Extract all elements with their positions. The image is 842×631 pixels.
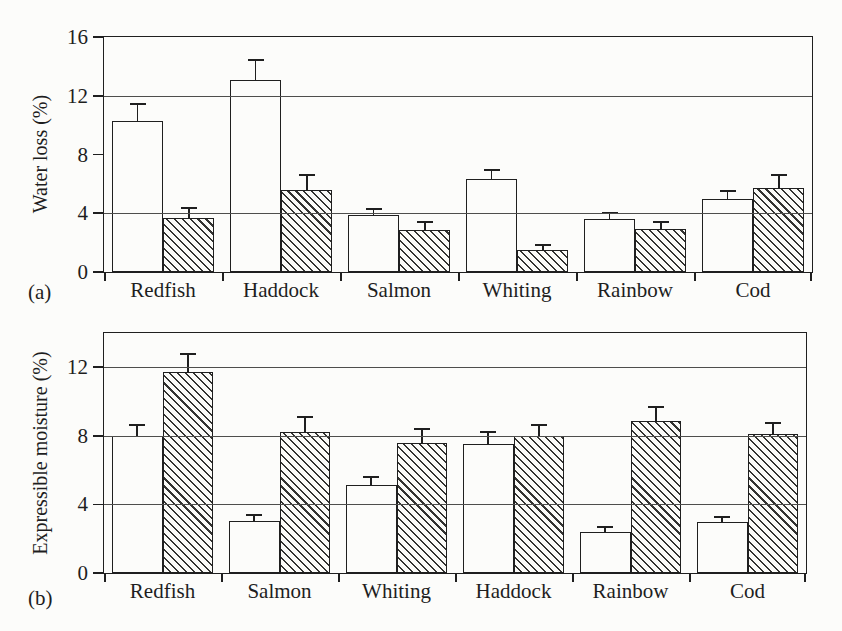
y-axis-tick: [93, 212, 103, 214]
error-bar-stem: [187, 354, 189, 372]
x-category-label: Salmon: [247, 579, 311, 603]
error-bar-stem: [538, 426, 540, 436]
error-bar-cap: [414, 428, 430, 430]
error-bar-cap: [720, 190, 736, 192]
y-axis-tick: [93, 36, 103, 38]
error-bar-stem: [604, 528, 606, 532]
y-axis-tick: [93, 95, 103, 97]
y-axis-tick: [93, 154, 103, 156]
y-gridline: [104, 504, 806, 505]
x-category-label: Rainbow: [597, 278, 673, 302]
open-bar: [346, 485, 397, 573]
hatched-bar: [635, 229, 686, 272]
open-bar: [580, 532, 631, 573]
error-bar-stem: [424, 223, 426, 230]
open-bar: [463, 444, 514, 573]
hatched-bar: [280, 432, 331, 573]
x-axis-tick: [104, 573, 106, 582]
error-bar-cap: [181, 207, 197, 209]
error-bar-cap: [363, 476, 379, 478]
error-bar-cap: [597, 526, 613, 528]
error-bar-stem: [772, 423, 774, 434]
error-bar-cap: [366, 208, 382, 210]
error-bar-cap: [648, 406, 664, 408]
hatched-bar: [281, 190, 332, 272]
hatched-bar: [163, 218, 214, 272]
x-axis-tick: [458, 272, 460, 281]
error-bar-stem: [655, 408, 657, 422]
error-bar-stem: [304, 418, 306, 433]
x-category-label: Whiting: [483, 278, 552, 302]
error-bar-cap: [180, 353, 196, 355]
x-axis-tick: [104, 272, 106, 281]
hatched-bar: [753, 188, 804, 272]
hatched-bar: [163, 372, 214, 573]
error-bar-cap: [531, 424, 547, 426]
error-bar-cap: [297, 416, 313, 418]
y-axis-tick-label: 0: [42, 561, 88, 585]
error-bar-cap: [771, 174, 787, 176]
x-axis-tick: [810, 272, 812, 281]
x-category-label: Whiting: [362, 579, 431, 603]
x-axis-tick: [694, 272, 696, 281]
error-bar-cap: [248, 59, 264, 61]
open-bar: [697, 522, 748, 573]
y-axis-tick: [93, 572, 103, 574]
y-axis-tick-label: 0: [42, 260, 88, 284]
error-bar-stem: [306, 175, 308, 190]
error-bar-stem: [253, 516, 255, 521]
hatched-bar: [631, 421, 682, 573]
x-axis-tick: [572, 573, 574, 582]
hatched-bar: [397, 443, 448, 573]
error-bar-cap: [653, 221, 669, 223]
panel-b-y-axis-title: Expressible moisture (%): [29, 351, 52, 554]
error-bar-stem: [255, 61, 257, 80]
panel-b-plot-area: 04812RedfishSalmonWhitingHaddockRainbowC…: [103, 332, 807, 574]
error-bar-stem: [491, 171, 493, 180]
error-bar-stem: [721, 517, 723, 521]
open-bar: [466, 179, 517, 272]
x-axis-tick: [222, 272, 224, 281]
y-gridline: [104, 367, 806, 368]
error-bar-cap: [130, 103, 146, 105]
error-bar-stem: [778, 175, 780, 188]
y-gridline: [104, 436, 806, 437]
error-bar-cap: [246, 514, 262, 516]
error-bar-cap: [714, 516, 730, 518]
open-bar: [229, 521, 280, 573]
open-bar: [348, 215, 399, 272]
error-bar-stem: [137, 105, 139, 121]
panel-a-plot-area: 0481216RedfishHaddockSalmonWhitingRainbo…: [103, 36, 813, 273]
y-axis-tick-label: 12: [42, 355, 88, 379]
x-category-label: Redfish: [130, 579, 195, 603]
error-bar-cap: [417, 221, 433, 223]
open-bar: [112, 121, 163, 272]
x-axis-tick: [455, 573, 457, 582]
error-bar-stem: [727, 192, 729, 199]
error-bar-cap: [129, 424, 145, 426]
y-axis-tick-label: 12: [42, 84, 88, 108]
y-axis-tick: [93, 435, 103, 437]
error-bar-cap: [535, 244, 551, 246]
x-category-label: Redfish: [130, 278, 195, 302]
x-category-label: Haddock: [476, 579, 552, 603]
error-bar-cap: [480, 431, 496, 433]
y-gridline: [104, 213, 812, 214]
y-axis-tick: [93, 366, 103, 368]
error-bar-stem: [660, 222, 662, 229]
x-category-label: Cod: [730, 579, 765, 603]
hatched-bar: [399, 230, 450, 272]
x-axis-tick: [338, 573, 340, 582]
x-axis-tick: [804, 573, 806, 582]
panel-b-tag: (b): [28, 586, 53, 611]
error-bar-stem: [136, 426, 138, 436]
figure-canvas: Water loss (%) (a) 0481216RedfishHaddock…: [0, 0, 842, 631]
x-axis-tick: [340, 272, 342, 281]
x-category-label: Cod: [735, 278, 770, 302]
y-axis-tick-label: 16: [42, 25, 88, 49]
y-axis-tick-label: 8: [42, 424, 88, 448]
error-bar-cap: [484, 169, 500, 171]
x-axis-tick: [221, 573, 223, 582]
x-axis-tick: [576, 272, 578, 281]
x-category-label: Rainbow: [593, 579, 669, 603]
